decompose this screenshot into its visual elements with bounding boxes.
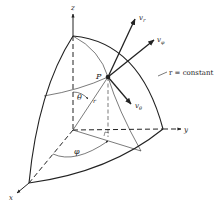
sphere-surface bbox=[29, 36, 163, 183]
v-theta-arrow bbox=[108, 77, 131, 104]
z-axis: z bbox=[70, 4, 75, 130]
x-axis: x bbox=[9, 130, 73, 202]
projection-lines bbox=[73, 77, 141, 151]
surface-leader-line bbox=[158, 72, 167, 76]
x-axis-label: x bbox=[9, 194, 13, 202]
spherical-coordinates-diagram: z y x θ φ r P bbox=[0, 0, 219, 204]
velocity-vectors bbox=[108, 19, 154, 104]
v-theta-label: vθ bbox=[135, 102, 142, 111]
y-axis-label: y bbox=[183, 126, 189, 134]
v-phi-label: vφ bbox=[157, 36, 165, 46]
radius-label: r bbox=[93, 97, 97, 104]
surface-label: r = constant bbox=[169, 69, 213, 77]
z-axis-label: z bbox=[70, 4, 75, 12]
theta-label: θ bbox=[77, 93, 82, 102]
v-phi-arrow bbox=[108, 40, 154, 77]
phi-label: φ bbox=[74, 147, 80, 156]
v-r-label: vr bbox=[139, 14, 146, 23]
point-p-label: P bbox=[95, 72, 102, 81]
